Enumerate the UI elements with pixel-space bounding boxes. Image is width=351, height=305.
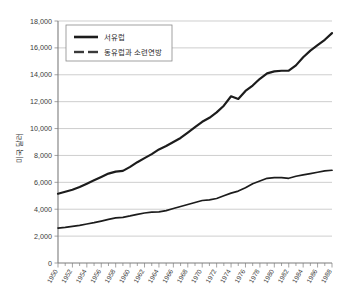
x-tick-label: 1978 <box>247 268 261 284</box>
x-tick-labels: 1950195219541956195819601962196419661968… <box>45 268 333 284</box>
x-tick-label: 1968 <box>175 268 189 284</box>
y-tick-label: 12,000 <box>30 97 52 106</box>
x-tick-label: 1954 <box>74 268 88 284</box>
chart-canvas: 02,0004,0006,0008,00010,00012,00014,0001… <box>0 0 351 305</box>
x-tick-label: 1956 <box>89 268 103 284</box>
y-tick-label: 14,000 <box>30 70 52 79</box>
x-tick-label: 1972 <box>204 268 218 284</box>
y-tick-label: 10,000 <box>30 124 52 133</box>
x-tick-label: 1974 <box>219 268 233 284</box>
x-tick-marks <box>58 263 332 268</box>
x-tick-label: 1952 <box>60 268 74 284</box>
x-tick-label: 1962 <box>132 268 146 284</box>
line-chart: 02,0004,0006,0008,00010,00012,00014,0001… <box>0 0 351 305</box>
x-tick-label: 1960 <box>118 268 132 284</box>
y-tick-label: 8,000 <box>34 151 52 160</box>
x-tick-label: 1984 <box>291 268 305 284</box>
y-tick-labels: 02,0004,0006,0008,00010,00012,00014,0001… <box>30 17 52 268</box>
series-lines <box>58 33 332 228</box>
y-tick-label: 4,000 <box>34 205 52 214</box>
y-tick-label: 2,000 <box>34 232 52 241</box>
x-tick-label: 1958 <box>103 268 117 284</box>
x-tick-label: 1950 <box>45 268 59 284</box>
x-tick-label: 1966 <box>161 268 175 284</box>
chart-legend: 서유럽동유럽과 소련연방 <box>66 25 172 61</box>
x-tick-label: 1988 <box>319 268 333 284</box>
y-tick-label: 0 <box>48 259 52 268</box>
y-tick-label: 16,000 <box>30 43 52 52</box>
x-tick-label: 1980 <box>262 268 276 284</box>
x-tick-label: 1982 <box>276 268 290 284</box>
x-tick-label: 1986 <box>305 268 319 284</box>
x-tick-label: 1964 <box>146 268 160 284</box>
legend-label-2: 동유럽과 소련연방 <box>104 48 162 57</box>
x-tick-label: 1976 <box>233 268 247 284</box>
legend-label-1: 서유럽 <box>104 33 125 42</box>
y-tick-label: 18,000 <box>30 17 52 26</box>
y-tick-label: 6,000 <box>34 178 52 187</box>
y-axis-title: 미국 달러 <box>15 133 24 163</box>
x-tick-label: 1970 <box>190 268 204 284</box>
